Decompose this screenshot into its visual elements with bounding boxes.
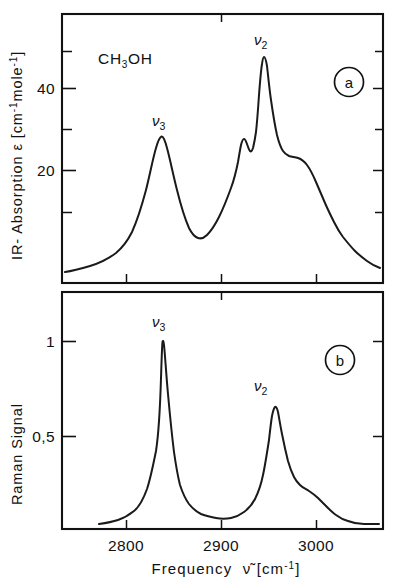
molecule-formula-main: CH	[98, 50, 122, 67]
panel-b-y-axis-title: Raman Signal	[9, 403, 25, 505]
panel-a-ytick-label-40: 40	[37, 80, 55, 97]
spectra-figure: 40 20 CH3OH ν3 ν2 a	[0, 0, 398, 582]
panel-b-ytick-label-05: 0,5	[32, 428, 55, 445]
x-axis-tick-label-2900: 2900	[203, 537, 239, 554]
panel-b-letter: b	[336, 352, 344, 369]
figure-canvas: 40 20 CH3OH ν3 ν2 a	[0, 0, 398, 582]
panel-b-peak-label-nu3: ν3	[152, 313, 166, 333]
panel-a-letter: a	[345, 74, 354, 91]
x-axis-title: Frequency ν̃ [cm-1]	[151, 560, 300, 577]
panel-a-y-axis-title: IR- Absorption ε [cm-1mole-1]	[8, 51, 25, 260]
molecule-formula-label: CH3OH	[98, 50, 153, 70]
panel-b-ytick-label-1: 1	[46, 333, 55, 350]
molecule-formula-tail: OH	[128, 50, 153, 67]
panel-b: 1 0,5 ν3 ν2 b	[32, 292, 383, 529]
panel-a-spectrum-curve	[65, 57, 380, 272]
panel-b-frame	[62, 292, 383, 529]
x-axis-tick-label-2800: 2800	[108, 537, 144, 554]
x-axis-tick-label-3000: 3000	[298, 537, 334, 554]
panel-a-peak-label-nu3: ν3	[152, 112, 166, 132]
panel-a-ytick-label-20: 20	[37, 162, 55, 179]
panel-a: 40 20 CH3OH ν3 ν2 a	[37, 14, 383, 283]
panel-b-peak-label-nu2: ν2	[254, 377, 268, 397]
panel-a-peak-label-nu2: ν2	[254, 31, 268, 51]
